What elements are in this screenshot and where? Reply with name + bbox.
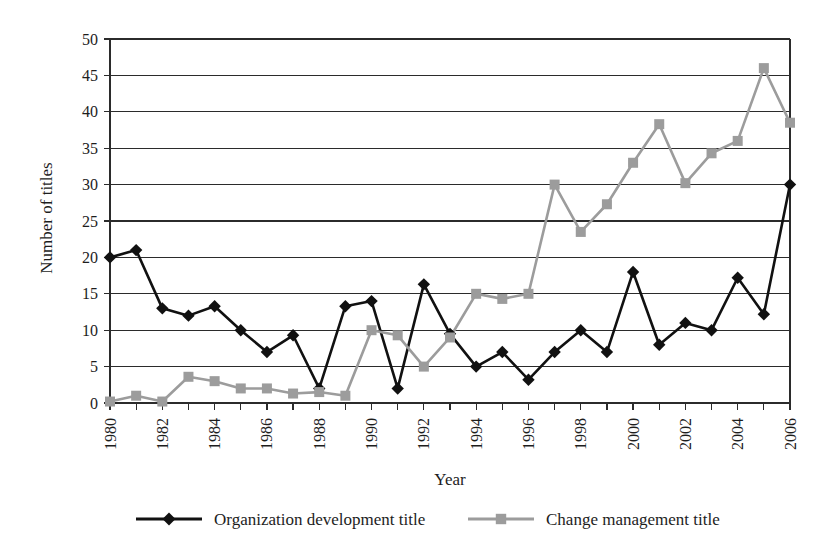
legend-marker-square [496,514,506,524]
data-point-marker [576,227,586,237]
x-tick-label: 2004 [729,418,746,450]
data-point-marker [182,309,194,321]
series-markers-group [104,63,796,406]
series-line-change-management [110,68,790,401]
y-tick-label: 15 [82,285,98,302]
data-point-marker [733,136,743,146]
data-point-marker [156,302,168,314]
y-tick-label: 35 [82,140,98,157]
x-tick-label: 2000 [625,418,642,450]
series-lines-group [110,68,790,401]
data-point-marker [391,382,403,394]
data-point-marker [130,244,142,256]
data-point-marker [628,158,638,168]
x-tick-label: 1996 [520,418,537,450]
y-tick-label: 5 [90,358,98,375]
x-tick-label: 1992 [415,418,432,450]
data-point-marker [418,278,430,290]
data-point-marker [287,329,299,341]
data-point-marker [419,362,429,372]
data-point-marker [367,325,377,335]
data-point-marker [365,295,377,307]
data-point-marker [131,391,141,401]
x-tick-label: 2006 [782,418,799,450]
x-tick-marks-group [110,403,790,410]
legend-label: Change management title [546,510,720,529]
data-point-marker [339,300,351,312]
data-point-marker [784,178,796,190]
x-tick-label: 1994 [468,418,485,450]
data-point-marker [523,289,533,299]
chart-figure: 05101520253035404550 1980198219841986198… [0,0,828,551]
data-point-marker [680,178,690,188]
y-axis-title: Number of titles [37,162,56,273]
data-point-marker [497,294,507,304]
data-point-marker [157,397,167,407]
data-point-marker [105,397,115,407]
x-tick-label: 2002 [677,418,694,450]
data-point-marker [602,199,612,209]
data-point-marker [288,389,298,399]
data-point-marker [104,251,116,263]
data-point-marker [183,372,193,382]
legend-marker-diamond [163,513,176,526]
data-point-marker [705,324,717,336]
x-tick-label: 1980 [102,418,119,450]
data-point-marker [785,118,795,128]
y-tick-labels-group: 05101520253035404550 [82,31,98,412]
x-tick-label: 1982 [154,418,171,450]
y-tick-label: 0 [90,395,98,412]
data-point-marker [445,332,455,342]
x-tick-label: 1990 [363,418,380,450]
data-point-marker [262,383,272,393]
x-tick-labels-group: 1980198219841986198819901992199419961998… [102,418,799,450]
y-tick-label: 45 [82,67,98,84]
data-point-marker [550,180,560,190]
data-point-marker [393,330,403,340]
x-tick-label: 1998 [572,418,589,450]
gridlines-group [110,39,790,403]
data-point-marker [210,376,220,386]
data-point-marker [236,383,246,393]
data-point-marker [707,148,717,158]
y-tick-label: 30 [82,176,98,193]
y-tick-label: 40 [82,103,98,120]
chart-svg: 05101520253035404550 1980198219841986198… [0,0,828,551]
x-tick-label: 1984 [206,418,223,450]
x-tick-label: 1988 [311,418,328,450]
data-point-marker [340,391,350,401]
chart-legend: Organization development titleChange man… [136,510,720,529]
data-point-marker [627,266,639,278]
data-point-marker [314,387,324,397]
y-tick-label: 10 [82,322,98,339]
y-tick-label: 20 [82,249,98,266]
y-tick-label: 50 [82,31,98,48]
data-point-marker [471,289,481,299]
y-tick-label: 25 [82,213,98,230]
series-line-organization-development [110,185,790,389]
data-point-marker [654,119,664,129]
x-tick-label: 1986 [258,418,275,450]
legend-label: Organization development title [214,510,425,529]
data-point-marker [759,63,769,73]
x-axis-title: Year [434,470,466,489]
